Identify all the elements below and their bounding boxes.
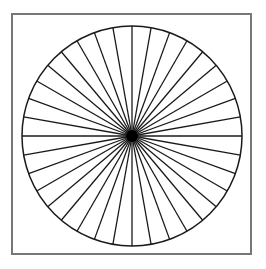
center-hub [126,130,138,142]
spoke-wheel-diagram [0,0,266,269]
